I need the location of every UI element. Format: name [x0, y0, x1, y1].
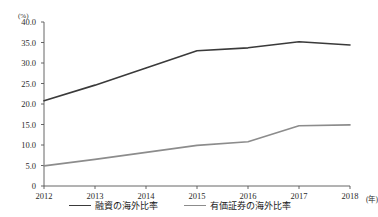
- y-tick-label: 40.0: [10, 17, 36, 27]
- chart-axes: [44, 22, 350, 186]
- legend-item-loan[interactable]: 融資の海外比率: [69, 199, 158, 212]
- series-line-securities: [44, 125, 350, 166]
- y-tick-label: 35.0: [10, 38, 36, 48]
- legend-item-securities[interactable]: 有価証券の海外比率: [184, 199, 291, 212]
- legend-label-loan: 融資の海外比率: [95, 199, 158, 212]
- chart-legend: 融資の海外比率 有価証券の海外比率: [0, 199, 359, 212]
- legend-label-securities: 有価証券の海外比率: [210, 199, 291, 212]
- y-tick-label: 10.0: [10, 140, 36, 150]
- legend-swatch-loan: [69, 205, 91, 206]
- series-line-loan: [44, 42, 350, 101]
- y-tick-label: 5.0: [10, 161, 36, 171]
- y-tick-label: 30.0: [10, 58, 36, 68]
- legend-swatch-securities: [184, 205, 206, 206]
- y-tick-label: 25.0: [10, 79, 36, 89]
- y-tick-label: 15.0: [10, 120, 36, 130]
- y-tick-label: 0: [10, 181, 36, 191]
- x-axis-unit-label: (年): [366, 193, 378, 204]
- y-tick-label: 20.0: [10, 99, 36, 109]
